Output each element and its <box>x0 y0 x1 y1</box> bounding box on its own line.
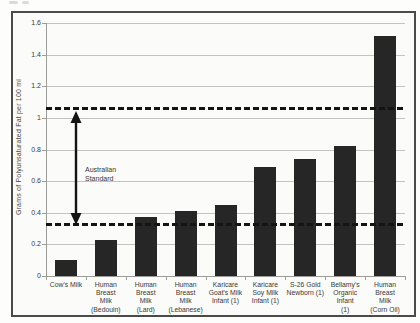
scan-artifact <box>9 1 18 4</box>
y-tick-label: 0.8 <box>15 146 41 154</box>
y-tick-label: 0 <box>15 272 41 280</box>
y-axis-line <box>46 23 47 276</box>
x-category-label: HumanBreastMilk(Bedouin) <box>84 281 128 314</box>
x-axis-tick <box>285 277 286 280</box>
y-tick-label: 1 <box>15 114 41 122</box>
y-gridline <box>46 23 405 24</box>
chart-frame: Grams of Polyunsaturated Fat per 100 ml … <box>11 11 416 317</box>
bar-human-breast-milk-lard- <box>135 217 157 276</box>
y-tick-label: 1.4 <box>15 51 41 59</box>
australian-standard-label: Australian Standard <box>85 165 135 183</box>
x-category-label: HumanBreastMilk(Corn Oil) <box>363 281 407 314</box>
bar-s-26-gold-newborn-1- <box>294 159 316 276</box>
y-gridline <box>46 55 405 56</box>
x-category-label: S-26 GoldNewborn (1) <box>283 281 327 297</box>
scanned-page: Grams of Polyunsaturated Fat per 100 ml … <box>0 0 420 323</box>
x-axis-tick <box>325 277 326 280</box>
x-axis-tick <box>126 277 127 280</box>
x-axis-tick <box>365 277 366 280</box>
x-category-label: HumanBreastMilk(Lard) <box>124 281 168 314</box>
y-tick-label: 1.6 <box>15 19 41 27</box>
x-axis-tick <box>405 277 406 280</box>
australian-standard-reference-line <box>46 107 405 110</box>
bar-karicare-soy-milk-infant-1- <box>254 167 276 276</box>
bar-human-breast-milk-lebanese- <box>175 211 197 276</box>
bar-cow-s-milk <box>55 260 77 276</box>
x-axis-line <box>46 276 406 277</box>
y-tick-label: 0.4 <box>15 209 41 217</box>
x-axis-tick <box>166 277 167 280</box>
australian-standard-reference-line <box>46 223 405 226</box>
y-tick-label: 0.6 <box>15 177 41 185</box>
x-category-label: KaricareGoat's MilkInfant (1) <box>204 281 248 306</box>
x-axis-tick <box>86 277 87 280</box>
scan-artifact <box>22 1 29 4</box>
y-tick-label: 0.2 <box>15 240 41 248</box>
x-category-label: Bellamy'sOrganicInfant(1) <box>323 281 367 314</box>
bar-karicare-goat-s-milk-infant-1- <box>215 205 237 276</box>
bar-human-breast-milk-bedouin- <box>95 240 117 276</box>
bar-bellamy-s-organic-infant-1- <box>334 146 356 276</box>
x-category-label: Cow's Milk <box>44 281 88 289</box>
x-axis-tick <box>206 277 207 280</box>
x-axis-tick <box>245 277 246 280</box>
bar-human-breast-milk-corn-oil- <box>374 36 396 276</box>
y-gridline <box>46 118 405 119</box>
x-category-label: KaricareSoy MilkInfant (1) <box>243 281 287 306</box>
x-axis-tick <box>46 277 47 280</box>
x-category-label: HumanBreastMilk(Lebanese) <box>164 281 208 314</box>
y-tick-label: 1.2 <box>15 82 41 90</box>
australian-standard-arrow-icon <box>69 111 83 225</box>
y-gridline <box>46 86 405 87</box>
